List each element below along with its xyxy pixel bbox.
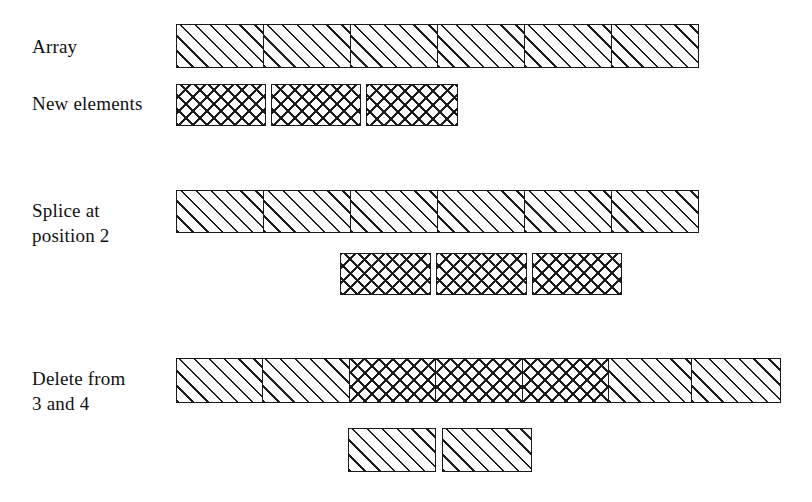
label-splice-line2: position 2 — [32, 223, 109, 248]
array-cell — [350, 24, 439, 68]
inserted-element-box — [532, 253, 622, 295]
new-element-box — [271, 84, 361, 126]
array-splice-diagram: Array New elements Splice at position 2 … — [0, 0, 812, 502]
delete-array-cell — [262, 358, 350, 403]
label-delete-line1: Delete from — [32, 366, 125, 391]
inserted-element-box — [436, 253, 527, 295]
splice-array-cell — [524, 190, 613, 233]
array-cell — [524, 24, 613, 68]
array-cell — [611, 24, 700, 68]
delete-array-cell — [522, 358, 610, 403]
label-array: Array — [32, 34, 77, 59]
delete-array-row — [176, 358, 786, 403]
array-cell — [263, 24, 352, 68]
delete-array-cell — [349, 358, 437, 403]
delete-array-cell — [691, 358, 781, 403]
deleted-element-box — [348, 428, 436, 472]
splice-inserted-row — [340, 253, 622, 295]
splice-array-row — [176, 190, 699, 233]
deleted-element-box — [442, 428, 532, 472]
new-element-box — [366, 84, 458, 126]
delete-array-cell — [608, 358, 693, 403]
deleted-elements-row — [348, 428, 532, 472]
label-new-elements: New elements — [32, 91, 143, 116]
delete-array-cell — [435, 358, 523, 403]
splice-array-cell — [611, 190, 700, 233]
array-cell — [437, 24, 526, 68]
array-cell — [176, 24, 265, 68]
splice-array-cell — [350, 190, 439, 233]
label-delete-line2: 3 and 4 — [32, 391, 89, 416]
splice-array-cell — [437, 190, 526, 233]
splice-array-cell — [263, 190, 352, 233]
new-element-box — [176, 84, 266, 126]
delete-array-cell — [176, 358, 264, 403]
label-splice-line1: Splice at — [32, 198, 100, 223]
splice-array-cell — [176, 190, 265, 233]
new-elements-row — [176, 84, 458, 126]
inserted-element-box — [340, 253, 431, 295]
array-row — [176, 24, 699, 68]
